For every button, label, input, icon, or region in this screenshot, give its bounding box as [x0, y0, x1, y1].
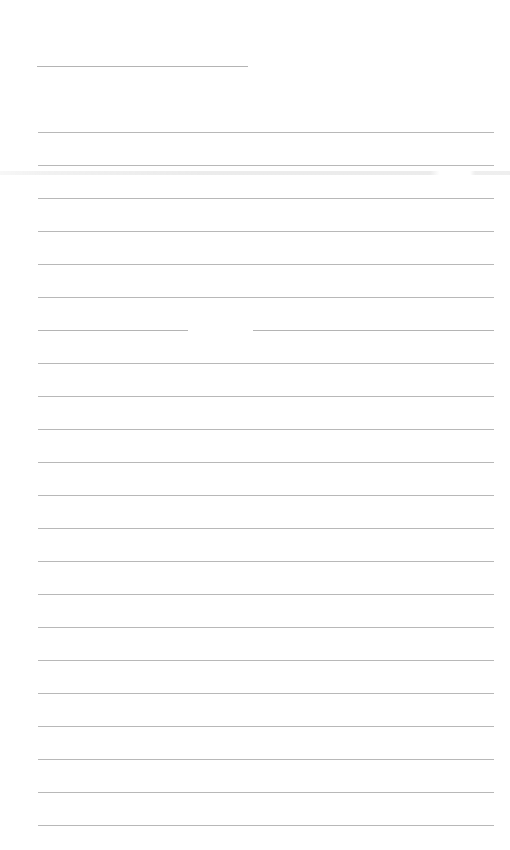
ruled-line [38, 198, 494, 199]
ruled-line [38, 462, 494, 463]
ruled-line [38, 297, 494, 298]
ruled-line [38, 594, 494, 595]
ruled-line [38, 330, 494, 331]
ruled-line [38, 660, 494, 661]
ruled-line [38, 165, 494, 166]
ruled-line [38, 528, 494, 529]
ruled-line [38, 264, 494, 265]
ruled-line [38, 396, 494, 397]
lined-paper-page [0, 0, 510, 850]
header-name-line [37, 66, 248, 67]
ruled-line [38, 495, 494, 496]
ruled-line [38, 792, 494, 793]
ruled-line [38, 231, 494, 232]
ruled-line [38, 693, 494, 694]
ruled-line [38, 726, 494, 727]
ruled-line [38, 825, 494, 826]
ruled-line [38, 561, 494, 562]
ruled-line [38, 429, 494, 430]
ruled-line [38, 759, 494, 760]
ruled-line [38, 132, 494, 133]
show-through-text [0, 171, 510, 175]
ruled-line [38, 363, 494, 364]
ruled-line [38, 627, 494, 628]
